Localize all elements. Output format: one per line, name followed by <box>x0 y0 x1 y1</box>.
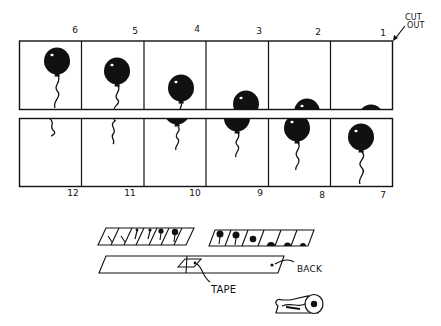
tape-dispenser-icon <box>276 295 323 314</box>
cut-out-arrow-icon <box>393 26 405 41</box>
assembly-strip-right <box>209 230 314 246</box>
frame-number-label: 10 <box>189 189 200 198</box>
frame-number-label: 1 <box>380 29 386 38</box>
frame-number-label: 9 <box>257 189 263 198</box>
frame-number-label: 2 <box>315 28 321 37</box>
tape-label: TAPE <box>211 285 236 295</box>
bottom-strip <box>20 98 393 187</box>
frame-number-label: 5 <box>132 27 138 36</box>
frame-number-label: 4 <box>194 25 200 34</box>
frame-number-label: 6 <box>72 26 78 35</box>
flipbook-cutout-diagram: 6 5 4 3 2 1 12 11 10 9 8 7 CUT OUT TAPE … <box>0 0 441 326</box>
assembly-strip-left <box>98 228 194 245</box>
frame-number-label: 3 <box>256 27 262 36</box>
back-label: BACK <box>297 265 322 274</box>
frame-number-label: 8 <box>319 191 325 200</box>
frame-number-label: 11 <box>124 189 135 198</box>
assembly-back-strip <box>99 256 294 282</box>
frame-number-label: 12 <box>67 189 78 198</box>
cut-out-label: OUT <box>407 22 425 30</box>
frame-number-label: 7 <box>380 191 386 200</box>
